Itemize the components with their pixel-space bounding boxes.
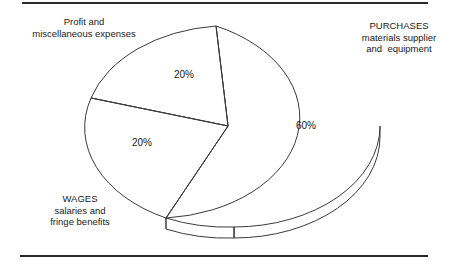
slice-value-purchases: 60% [288, 120, 324, 131]
pie-chart-figure: Profit andmiscellaneous expenses PURCHAS… [0, 0, 450, 272]
callout-label-purchases-line-2: materials supplier [362, 32, 436, 43]
callout-label-profit-line-1: Profit and [64, 16, 105, 27]
callout-label-wages-line-3: fringe benefits [50, 216, 110, 227]
callout-label-purchases-line-3: and equipment [366, 43, 432, 54]
pie-3d-side-wall-wages [166, 218, 234, 238]
callout-label-wages: WAGESsalaries andfringe benefits [32, 193, 128, 228]
callout-label-wages-line-2: salaries and [54, 205, 105, 216]
callout-label-purchases-line-1: PURCHASES [369, 20, 428, 31]
callout-label-profit-line-2: miscellaneous expenses [32, 28, 136, 39]
slice-value-wages: 20% [124, 137, 160, 148]
callout-label-profit: Profit andmiscellaneous expenses [18, 16, 150, 39]
callout-label-purchases: PURCHASESmaterials supplierand equipment [352, 20, 446, 55]
callout-label-wages-line-1: WAGES [62, 193, 97, 204]
slice-value-profit: 20% [166, 69, 202, 80]
